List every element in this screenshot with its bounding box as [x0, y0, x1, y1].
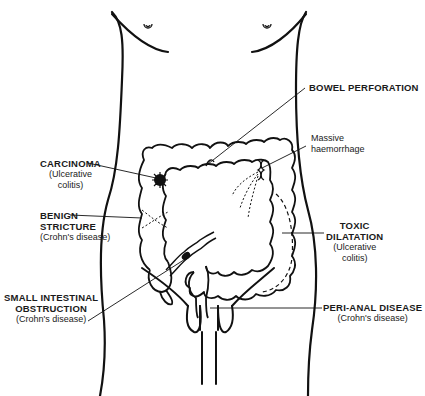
sio-title-1: SMALL INTESTINAL — [4, 292, 98, 303]
carcinoma-tumor-icon — [152, 172, 168, 188]
massive-haemorrhage-line-2: haemorrhage — [311, 144, 365, 155]
small-intestinal-obstruction-leader — [88, 256, 190, 321]
benign-stricture-title-1: BENIGN — [40, 210, 110, 221]
torso-right-outline — [296, 12, 316, 396]
bowel-perforation-title: BOWEL PERFORATION — [309, 82, 419, 93]
massive-haemorrhage-line-1: Massive — [311, 133, 365, 144]
carcinoma-sub-2: colitis) — [40, 180, 101, 191]
left-scrotum — [187, 306, 201, 332]
peri-anal-disease-sub: (Crohn's disease) — [323, 313, 422, 324]
label-carcinoma: CARCINOMA (Ulcerative colitis) — [40, 158, 101, 191]
label-massive-haemorrhage: Massive haemorrhage — [311, 133, 365, 155]
benign-stricture-sub: (Crohn's disease) — [40, 232, 110, 243]
toxic-dilatation-title-1: TOXIC — [326, 220, 383, 231]
label-toxic-dilatation: TOXIC DILATATION (Ulcerative colitis) — [326, 220, 383, 264]
sio-title-2: OBSTRUCTION — [4, 303, 98, 314]
toxic-dilatation-title-2: DILATATION — [326, 231, 383, 242]
toxic-dilatation-sub-2: colitis) — [326, 253, 383, 264]
right-scrotum — [218, 306, 233, 332]
label-benign-stricture: BENIGN STRICTURE (Crohn's disease) — [40, 210, 110, 243]
peri-anal-disease-title: PERI-ANAL DISEASE — [323, 302, 422, 313]
toxic-dilatation-sub-1: (Ulcerative — [326, 242, 383, 253]
benign-stricture-title-2: STRICTURE — [40, 221, 110, 232]
carcinoma-title: CARCINOMA — [40, 158, 101, 169]
colon-inner-wall — [163, 160, 273, 276]
sio-sub: (Crohn's disease) — [4, 314, 98, 325]
haemorrhage-site-icon — [258, 160, 264, 180]
bowel-perforation-leader — [208, 88, 305, 164]
label-small-intestinal-obstruction: SMALL INTESTINAL OBSTRUCTION (Crohn's di… — [4, 292, 98, 325]
terminal-ileum — [166, 232, 214, 270]
abdomen-anatomy-illustration — [0, 0, 425, 396]
label-peri-anal-disease: PERI-ANAL DISEASE (Crohn's disease) — [323, 302, 422, 324]
penis — [200, 306, 218, 384]
carcinoma-sub-1: (Ulcerative — [40, 169, 101, 180]
toxic-dilatation-outline — [262, 194, 292, 292]
label-bowel-perforation: BOWEL PERFORATION — [309, 82, 419, 93]
torso-left-outline — [100, 12, 123, 396]
